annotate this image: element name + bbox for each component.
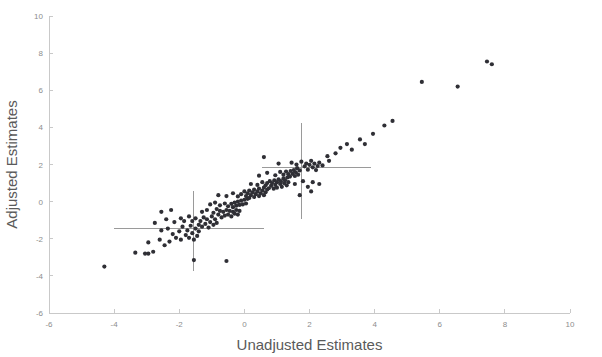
data-point [309, 159, 313, 163]
axis-labels-group: Unadjusted EstimatesAdjusted Estimates [3, 100, 382, 353]
data-point [205, 208, 209, 212]
data-point [208, 202, 212, 206]
data-point [169, 208, 173, 212]
x-tick-label: 10 [566, 320, 575, 329]
data-point [358, 137, 362, 141]
data-point [456, 84, 460, 88]
data-point [298, 193, 302, 197]
chart-canvas: -6-4-20246810-6-4-20246810 Unadjusted Es… [0, 0, 602, 357]
data-point [255, 183, 259, 187]
data-point [200, 225, 204, 229]
y-tick-label: 6 [39, 86, 44, 95]
data-point [146, 252, 150, 256]
data-point [159, 210, 163, 214]
y-tick-label: 10 [34, 12, 43, 21]
data-point [208, 220, 212, 224]
data-point [294, 162, 298, 166]
data-point [213, 217, 217, 221]
data-point [184, 233, 188, 237]
x-tick-label: 6 [438, 320, 443, 329]
data-point [231, 191, 235, 195]
ticks-group: -6-4-20246810-6-4-20246810 [34, 12, 575, 329]
data-point [224, 259, 228, 263]
data-point [216, 193, 220, 197]
data-point [211, 211, 215, 215]
y-tick-label: -4 [36, 272, 44, 281]
data-point [179, 238, 183, 242]
data-point [317, 161, 321, 165]
data-point [237, 209, 241, 213]
y-tick-label: 4 [39, 123, 44, 132]
data-point [189, 224, 193, 228]
data-point [296, 173, 300, 177]
data-point [490, 62, 494, 66]
x-tick-label: -6 [45, 320, 53, 329]
data-point [167, 239, 171, 243]
x-tick-label: -2 [176, 320, 184, 329]
data-point [159, 228, 163, 232]
data-point [102, 264, 106, 268]
data-point [320, 163, 324, 167]
data-point [299, 160, 303, 164]
data-point [203, 222, 207, 226]
data-point [192, 258, 196, 262]
data-point [309, 189, 313, 193]
data-point [192, 238, 196, 242]
data-point [276, 161, 280, 165]
data-point [185, 228, 189, 232]
data-point [182, 219, 186, 223]
data-point [179, 216, 183, 220]
data-point [311, 180, 315, 184]
y-tick-label: 8 [39, 49, 44, 58]
data-point [193, 226, 197, 230]
data-point [311, 165, 315, 169]
data-point [166, 226, 170, 230]
data-point [390, 119, 394, 123]
data-point [210, 214, 214, 218]
x-tick-label: 2 [307, 320, 312, 329]
data-point [275, 186, 279, 190]
data-point [236, 213, 240, 217]
data-point [198, 219, 202, 223]
data-point [158, 238, 162, 242]
data-point [485, 59, 489, 63]
data-point [257, 174, 261, 178]
data-point [163, 243, 167, 247]
data-point [293, 182, 297, 186]
y-tick-label: -6 [36, 309, 44, 318]
data-point [239, 192, 243, 196]
data-point [174, 236, 178, 240]
x-axis-title: Unadjusted Estimates [237, 336, 383, 353]
data-point [218, 203, 222, 207]
x-tick-label: -4 [111, 320, 119, 329]
data-point [345, 142, 349, 146]
data-point [306, 168, 310, 172]
data-point [273, 173, 277, 177]
data-point [289, 161, 293, 165]
data-point [190, 231, 194, 235]
data-point [172, 220, 176, 224]
data-point [171, 232, 175, 236]
data-point [153, 221, 157, 225]
data-points-group [102, 59, 494, 268]
scatter-plot-figure: -6-4-20246810-6-4-20246810 Unadjusted Es… [0, 0, 602, 357]
data-point [249, 182, 253, 186]
data-point [187, 236, 191, 240]
data-point [333, 151, 337, 155]
data-point [420, 80, 424, 84]
data-point [206, 226, 210, 230]
data-point [371, 132, 375, 136]
x-tick-label: 4 [372, 320, 377, 329]
data-point [180, 225, 184, 229]
data-point [350, 148, 354, 152]
data-point [338, 146, 342, 150]
data-point [133, 251, 137, 255]
data-point [314, 168, 318, 172]
error-crosses-group [114, 123, 371, 272]
data-point [325, 154, 329, 158]
y-tick-label: 2 [39, 161, 44, 170]
data-point [216, 213, 220, 217]
data-point [301, 179, 305, 183]
data-point [262, 155, 266, 159]
x-tick-label: 0 [242, 320, 247, 329]
